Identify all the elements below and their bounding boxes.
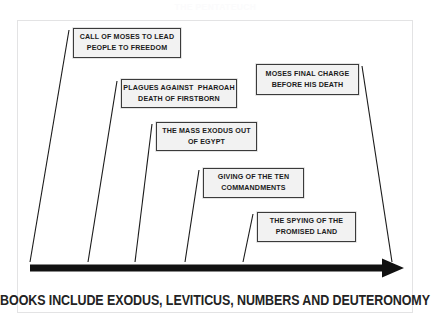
timeline-arrow bbox=[30, 259, 404, 278]
callout-line: THE SPYING OF THE bbox=[270, 216, 344, 227]
callout-line: BEFORE HIS DEATH bbox=[272, 80, 344, 91]
arrow-shape bbox=[30, 259, 404, 278]
callout-line: OF EGYPT bbox=[188, 137, 225, 148]
timeline-vector-layer bbox=[0, 0, 431, 331]
callout-call-of-moses[interactable]: CALL OF MOSES TO LEADPEOPLE TO FREEDOM bbox=[73, 28, 181, 58]
leader-line-moses-final-charge bbox=[362, 66, 392, 262]
callout-line: THE MASS EXODUS OUT bbox=[162, 126, 250, 137]
caption-bar: BOOKS INCLUDE EXODUS, LEVITICUS, NUMBERS… bbox=[46, 288, 383, 311]
caption-text: BOOKS INCLUDE EXODUS, LEVITICUS, NUMBERS… bbox=[0, 292, 430, 308]
callout-line: PEOPLE TO FREEDOM bbox=[87, 43, 167, 54]
leader-line-plagues-against-pharoah bbox=[88, 81, 117, 262]
callout-line: GIVING OF THE TEN bbox=[218, 172, 290, 183]
callout-line: MOSES FINAL CHARGE bbox=[266, 69, 350, 80]
callout-line: CALL OF MOSES TO LEAD bbox=[80, 32, 174, 43]
callout-mass-exodus[interactable]: THE MASS EXODUS OUTOF EGYPT bbox=[156, 122, 257, 151]
callout-spying-promised-land[interactable]: THE SPYING OF THEPROMISED LAND bbox=[257, 212, 356, 242]
leader-line-spying-promised-land bbox=[243, 214, 253, 262]
callout-ten-commandments[interactable]: GIVING OF THE TENCOMMANDMENTS bbox=[203, 168, 304, 198]
leader-line-mass-exodus bbox=[135, 124, 152, 262]
callout-plagues-against-pharoah[interactable]: PLAGUES AGAINST PHAROAHDEATH OF FIRSTBOR… bbox=[121, 79, 237, 108]
leader-line-ten-commandments bbox=[185, 170, 199, 262]
leader-line-call-of-moses bbox=[30, 30, 69, 262]
callout-line: DEATH OF FIRSTBORN bbox=[138, 94, 220, 105]
callout-line: PROMISED LAND bbox=[276, 227, 337, 238]
callout-moses-final-charge[interactable]: MOSES FINAL CHARGEBEFORE HIS DEATH bbox=[256, 64, 359, 95]
callout-line: COMMANDMENTS bbox=[221, 183, 285, 194]
slide-canvas: THE PENTATEUCH CALL OF MOSES TO LEADPEOP… bbox=[0, 0, 431, 331]
callout-line: PLAGUES AGAINST PHAROAH bbox=[123, 83, 234, 94]
